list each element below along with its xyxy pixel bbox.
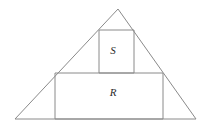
geometry-figure: S R xyxy=(0,0,203,127)
square-S-label: S xyxy=(110,44,116,56)
figure-canvas: S R xyxy=(0,0,203,127)
outer-triangle xyxy=(15,9,196,119)
rectangle-R-label: R xyxy=(109,86,117,98)
square-S-shape xyxy=(99,30,134,73)
